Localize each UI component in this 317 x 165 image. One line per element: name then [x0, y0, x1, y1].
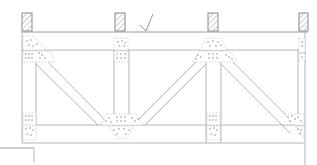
gusset-plate-bottom-3 — [207, 113, 220, 125]
diagonal-2-lower — [145, 64, 206, 125]
gusset-plate-top-3-lower — [192, 51, 237, 62]
diagonal-2-upper — [133, 52, 206, 125]
diagonal-members — [36, 50, 295, 133]
gusset-plate-bottom-2-lower — [109, 126, 134, 138]
gusset-plate-top-left — [23, 36, 46, 50]
support-post-2 — [115, 13, 125, 31]
gusset-plates — [23, 36, 305, 140]
support-post-1 — [22, 13, 32, 31]
ground-line — [0, 148, 34, 162]
gusset-plate-top-3 — [200, 38, 227, 50]
bottom-chord — [22, 125, 305, 143]
gusset-plate-top-2-lower — [114, 51, 128, 62]
support-posts — [22, 13, 308, 31]
checkmark-icon — [140, 14, 153, 31]
truss-drawing: Truss elevation sketch — [0, 0, 317, 165]
support-post-4 — [299, 13, 308, 31]
gusset-plate-bottom-right — [285, 114, 304, 125]
diagonal-1-lower — [36, 64, 98, 125]
gusset-plate-bottom-left — [23, 113, 36, 125]
diagonal-3-lower — [221, 64, 290, 133]
vertical-members — [22, 32, 305, 165]
top-chord — [22, 32, 308, 50]
truss-svg — [0, 0, 317, 165]
gusset-plate-bottom-right-lower — [295, 126, 304, 138]
gusset-plate-top-2 — [114, 38, 128, 50]
support-post-3 — [208, 13, 218, 31]
gusset-plate-bottom-2 — [101, 114, 143, 125]
